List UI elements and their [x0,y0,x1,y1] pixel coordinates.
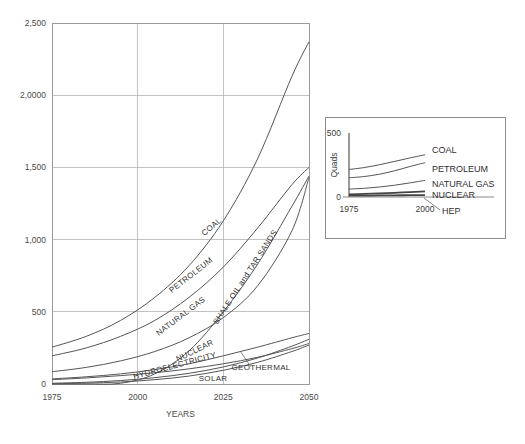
series-label-geothermal: GEOTHERMAL [232,363,291,372]
inset-series-label-hep: HEP [442,206,461,216]
y-axis-tick-label: 1,500 [25,162,47,172]
inset-series-label-natural-gas: NATURAL GAS [432,179,495,189]
inset-x-tick-label: 2000 [416,204,435,214]
inset-series-label-nuclear: NUCLEAR [432,190,476,200]
inset-series-label-coal: COAL [432,145,457,155]
series-label-solar: SOLAR [199,374,228,383]
x-axis-tick-label: 2050 [300,392,319,402]
inset-y-axis-title: Quads [329,152,339,177]
inset-series-curve-hep [349,195,425,196]
chart-canvas: 05001,0001,5002,00002,500197520002025205… [0,0,525,444]
inset-series-label-petroleum: PETROLEUM [432,164,488,174]
y-axis-tick-label: 0 [41,379,46,389]
y-axis-tick-label: 2,0000 [20,90,46,100]
x-axis-title: YEARS [166,409,195,419]
x-axis-tick-label: 1975 [43,392,62,402]
x-axis-tick-label: 2025 [214,392,233,402]
inset-x-tick-label: 1975 [340,204,359,214]
y-axis-tick-label: 1,000 [25,235,47,245]
inset-y-tick-label: 0 [336,192,341,202]
y-axis-tick-label: 500 [32,307,46,317]
energy-projection-figure: 05001,0001,5002,00002,500197520002025205… [0,0,525,444]
y-axis-tick-label: 2,500 [25,18,47,28]
x-axis-tick-label: 2000 [128,392,147,402]
inset-chart: 050019752000QuadsCOALPETROLEUMNATURAL GA… [325,117,505,238]
inset-y-tick-label: 500 [327,128,341,138]
